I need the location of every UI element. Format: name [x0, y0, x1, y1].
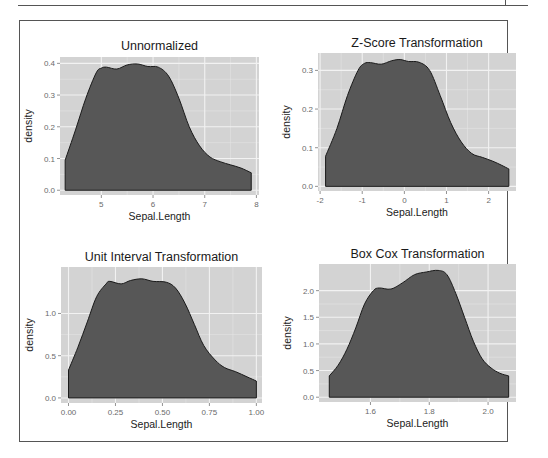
- y-tick-label: 0.0: [44, 186, 56, 195]
- y-tick-label: 1.5: [303, 313, 315, 322]
- x-axis-label: Sepal.Length: [131, 418, 193, 430]
- x-tick-label: 0.75: [202, 408, 218, 417]
- figure-svg: 0.00.10.20.30.45678UnnormalizedSepal.Len…: [0, 0, 548, 458]
- x-tick-label: 7: [203, 200, 208, 209]
- x-axis-label: Sepal.Length: [387, 417, 449, 429]
- y-tick-label: 0.2: [302, 105, 314, 114]
- y-axis-label: density: [280, 105, 292, 139]
- chart-title: Unit Interval Transformation: [85, 250, 239, 264]
- y-axis-label: density: [22, 109, 34, 143]
- x-tick-label: 8: [254, 200, 259, 209]
- y-tick-label: 2.0: [303, 287, 315, 296]
- x-tick-label: 0.50: [155, 408, 171, 417]
- y-axis-label: density: [281, 316, 293, 350]
- y-tick-label: 0.3: [44, 91, 56, 100]
- y-tick-label: 0.4: [44, 59, 56, 68]
- x-axis-label: Sepal.Length: [386, 206, 448, 218]
- y-tick-label: 1.0: [303, 340, 315, 349]
- x-tick-label: 1.6: [365, 407, 377, 416]
- y-tick-label: 1.0: [45, 309, 57, 318]
- chart-panel-unnormalized: 0.00.10.20.30.45678UnnormalizedSepal.Len…: [22, 39, 259, 222]
- chart-title: Box Cox Transformation: [350, 247, 484, 261]
- y-tick-label: 0.1: [44, 155, 56, 164]
- x-tick-label: 5: [99, 200, 104, 209]
- chart-title: Z-Score Transformation: [351, 36, 482, 50]
- y-tick-label: 0.0: [303, 393, 315, 402]
- y-tick-label: 0.2: [44, 123, 56, 132]
- x-tick-label: -2: [317, 196, 325, 205]
- y-tick-label: 0.5: [45, 352, 57, 361]
- y-tick-label: 0.5: [303, 367, 315, 376]
- chart-title: Unnormalized: [121, 39, 198, 53]
- x-tick-label: 0.25: [108, 408, 124, 417]
- x-tick-label: 2: [486, 196, 491, 205]
- x-tick-label: 6: [151, 200, 156, 209]
- chart-panel-z-score: 0.00.10.20.3-2-1012Z-Score Transformatio…: [280, 36, 516, 218]
- x-tick-label: 1: [444, 196, 449, 205]
- x-tick-label: 0.00: [61, 408, 77, 417]
- x-tick-label: 1.00: [249, 408, 265, 417]
- x-axis-label: Sepal.Length: [129, 210, 191, 222]
- x-tick-label: -1: [359, 196, 367, 205]
- chart-panel-unit-interval: 0.00.51.00.000.250.500.751.00Unit Interv…: [23, 250, 265, 430]
- x-tick-label: 1.8: [424, 407, 436, 416]
- x-tick-label: 0: [402, 196, 407, 205]
- chart-panel-box-cox: 0.00.51.01.52.01.61.82.0Box Cox Transfor…: [281, 247, 516, 429]
- y-axis-label: density: [23, 318, 35, 352]
- y-tick-label: 0.3: [302, 66, 314, 75]
- y-tick-label: 0.0: [302, 182, 314, 191]
- x-tick-label: 2.0: [483, 407, 495, 416]
- y-tick-label: 0.0: [45, 394, 57, 403]
- y-tick-label: 0.1: [302, 144, 314, 153]
